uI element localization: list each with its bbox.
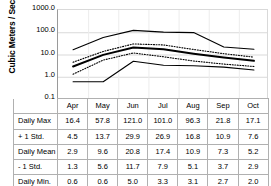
table-cell-value: 11.7	[118, 160, 148, 175]
table-cell-value: 3.3	[148, 175, 178, 186]
table-cell-value: 101.0	[148, 114, 178, 129]
table-cell-value: 1.3	[58, 160, 88, 175]
y-axis-tick-label: 1000.0	[18, 4, 55, 12]
table-cell-value: 3.7	[208, 160, 238, 175]
table-cell-value: 2.9	[238, 160, 268, 175]
y-axis-tick-label: 100.0	[18, 26, 55, 34]
table-row: + 1 Std.4.513.729.926.916.810.97.6	[14, 129, 269, 144]
table-cell-value: 17.4	[148, 144, 178, 159]
y-axis-tick-label: 1.0	[18, 71, 55, 79]
table-cell-value: 17.1	[238, 114, 268, 129]
table-cell-value: 96.3	[178, 114, 208, 129]
table-column-header-apr: Apr	[58, 99, 88, 114]
table-row: - 1 Std.1.35.611.77.95.13.72.9	[14, 160, 269, 175]
table-cell-value: 10.9	[208, 129, 238, 144]
table-column-header-may: May	[88, 99, 118, 114]
plot-area	[57, 9, 268, 98]
table-row: Daily Min.0.60.65.03.33.12.72.0	[14, 175, 269, 186]
table-corner-cell	[14, 99, 58, 114]
table-cell-value: 2.0	[238, 175, 268, 186]
y-axis-tick-label: 10.0	[18, 49, 55, 57]
series-line-daily-max	[73, 30, 254, 49]
table-cell-value: 3.1	[178, 175, 208, 186]
table-cell-value: 2.9	[58, 144, 88, 159]
y-axis-tick-labels: 1000.0100.010.01.00.1	[18, 8, 55, 104]
table-row: Daily Max16.457.8121.0101.096.321.817.1	[14, 114, 269, 129]
table-cell-value: 16.4	[58, 114, 88, 129]
table-row-label: + 1 Std.	[14, 129, 58, 144]
table-cell-value: 0.6	[58, 175, 88, 186]
table-column-header-jul: Jul	[148, 99, 178, 114]
table-cell-value: 21.8	[208, 114, 238, 129]
table-cell-value: 7.6	[238, 129, 268, 144]
table-cell-value: 7.3	[208, 144, 238, 159]
table-cell-value: 16.8	[178, 129, 208, 144]
table-cell-value: 121.0	[118, 114, 148, 129]
table-cell-value: 0.6	[88, 175, 118, 186]
table-cell-value: 4.5	[58, 129, 88, 144]
table-cell-value: 5.1	[178, 160, 208, 175]
table-row-label: Daily Mean	[14, 144, 58, 159]
table-cell-value: 13.7	[88, 129, 118, 144]
table-cell-value: 7.9	[148, 160, 178, 175]
data-table: AprMayJunJulAugSepOct Daily Max16.457.81…	[13, 98, 269, 186]
table-column-header-aug: Aug	[178, 99, 208, 114]
table-cell-value: 20.8	[118, 144, 148, 159]
table-cell-value: 10.9	[178, 144, 208, 159]
table-column-header-oct: Oct	[238, 99, 268, 114]
table-column-header-jun: Jun	[118, 99, 148, 114]
table-row-label: Daily Max	[14, 114, 58, 129]
table-cell-value: 5.0	[118, 175, 148, 186]
chart-figure: Cubic Meters / Second 1000.0100.010.01.0…	[0, 0, 271, 186]
table-cell-value: 5.6	[88, 160, 118, 175]
table-cell-value: 5.2	[238, 144, 268, 159]
table-row: Daily Mean2.99.620.817.410.97.35.2	[14, 144, 269, 159]
plot-lines	[58, 10, 268, 98]
table-cell-value: 9.6	[88, 144, 118, 159]
table-header-row: AprMayJunJulAugSepOct	[14, 99, 269, 114]
table-cell-value: 26.9	[148, 129, 178, 144]
table-cell-value: 29.9	[118, 129, 148, 144]
table-row-label: Daily Min.	[14, 175, 58, 186]
table-row-label: - 1 Std.	[14, 160, 58, 175]
table-column-header-sep: Sep	[208, 99, 238, 114]
y-axis-title: Cubic Meters / Second	[5, 0, 19, 77]
table-cell-value: 57.8	[88, 114, 118, 129]
table-cell-value: 2.7	[208, 175, 238, 186]
